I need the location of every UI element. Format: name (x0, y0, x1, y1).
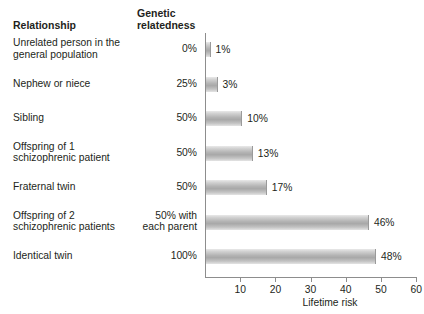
bar-value-label: 1% (216, 42, 231, 57)
x-axis-tick-label: 30 (296, 284, 326, 295)
bar (206, 111, 242, 126)
bar (206, 146, 253, 161)
schizophrenia-risk-chart: Relationship Genetic relatedness Unrelat… (0, 0, 424, 314)
x-axis-tick (311, 277, 312, 282)
x-axis-tick-label: 40 (331, 284, 361, 295)
row-genetic-relatedness-line2: each parent (105, 221, 197, 233)
bar (206, 215, 369, 230)
bar (206, 249, 376, 264)
x-axis-tick-label: 10 (225, 284, 255, 295)
row-genetic-relatedness-line1: 100% (105, 250, 197, 262)
bar-value-label: 10% (247, 111, 268, 126)
column-header-genetic-relatedness-line1: Genetic (137, 8, 197, 20)
x-axis-tick-label: 60 (401, 284, 424, 295)
row-genetic-relatedness: 50% (105, 147, 197, 159)
x-axis-tick (381, 277, 382, 282)
bar-value-label: 46% (374, 215, 395, 230)
row-genetic-relatedness-line1: 50% (105, 112, 197, 124)
row-genetic-relatedness: 50% (105, 181, 197, 193)
x-axis-tick (346, 277, 347, 282)
x-axis-tick-label: 50 (366, 284, 396, 295)
row-genetic-relatedness: 50% (105, 112, 197, 124)
row-genetic-relatedness: 50% witheach parent (105, 210, 197, 233)
column-header-genetic-relatedness: Genetic relatedness (137, 8, 197, 31)
row-genetic-relatedness-line1: 0% (105, 43, 197, 55)
column-header-relationship: Relationship (13, 20, 76, 32)
bar (206, 42, 211, 57)
row-genetic-relatedness: 25% (105, 78, 197, 90)
row-genetic-relatedness-line1: 50% (105, 147, 197, 159)
x-axis-tick (416, 277, 417, 282)
x-axis-label: Lifetime risk (270, 297, 390, 308)
x-axis-tick (240, 277, 241, 282)
x-axis-tick-label: 20 (260, 284, 290, 295)
bar-value-label: 17% (272, 180, 293, 195)
bar (206, 180, 267, 195)
bar-value-label: 48% (381, 249, 402, 264)
column-header-genetic-relatedness-line2: relatedness (137, 20, 197, 32)
x-axis-tick (275, 277, 276, 282)
bar (206, 77, 218, 92)
row-genetic-relatedness: 100% (105, 250, 197, 262)
row-genetic-relatedness-line1: 25% (105, 78, 197, 90)
row-genetic-relatedness-line1: 50% with (105, 210, 197, 222)
row-genetic-relatedness-line1: 50% (105, 181, 197, 193)
bar-value-label: 3% (223, 77, 238, 92)
row-genetic-relatedness: 0% (105, 43, 197, 55)
bar-value-label: 13% (258, 146, 279, 161)
